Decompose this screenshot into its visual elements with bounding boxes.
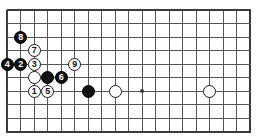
stone-white-5-label: 5 [45, 87, 50, 96]
stone-white-7-label: 7 [32, 46, 37, 55]
stone-white-9-label: 9 [72, 60, 77, 69]
stone-black-6[interactable]: 6 [55, 71, 68, 84]
stone-black-8[interactable]: 8 [14, 31, 27, 44]
star-points [140, 89, 143, 92]
stone-white-5[interactable]: 5 [41, 85, 54, 98]
stone-white-unnumbered-left[interactable] [28, 71, 41, 84]
stone-black-unnumbered-right[interactable] [82, 85, 95, 98]
go-board-diagram: 123456789 [0, 0, 256, 138]
stone-white-3-label: 3 [32, 60, 37, 69]
stone-white-9[interactable]: 9 [68, 58, 81, 71]
stone-black-2[interactable]: 2 [14, 58, 27, 71]
stone-white-1-label: 1 [32, 87, 37, 96]
stone-black-8-label: 8 [18, 33, 23, 42]
stone-black-unnumbered-center[interactable] [41, 71, 54, 84]
stone-black-4[interactable]: 4 [1, 58, 14, 71]
stone-black-2-label: 2 [18, 60, 23, 69]
stone-black-4-label: 4 [5, 60, 10, 69]
stone-white-1[interactable]: 1 [28, 85, 41, 98]
stone-white-unnumbered-farright[interactable] [203, 85, 216, 98]
stone-white-7[interactable]: 7 [28, 44, 41, 57]
stone-black-6-label: 6 [59, 73, 64, 82]
star-point-center-left [140, 89, 143, 92]
stone-white-unnumbered-midright[interactable] [109, 85, 122, 98]
stone-white-3[interactable]: 3 [28, 58, 41, 71]
